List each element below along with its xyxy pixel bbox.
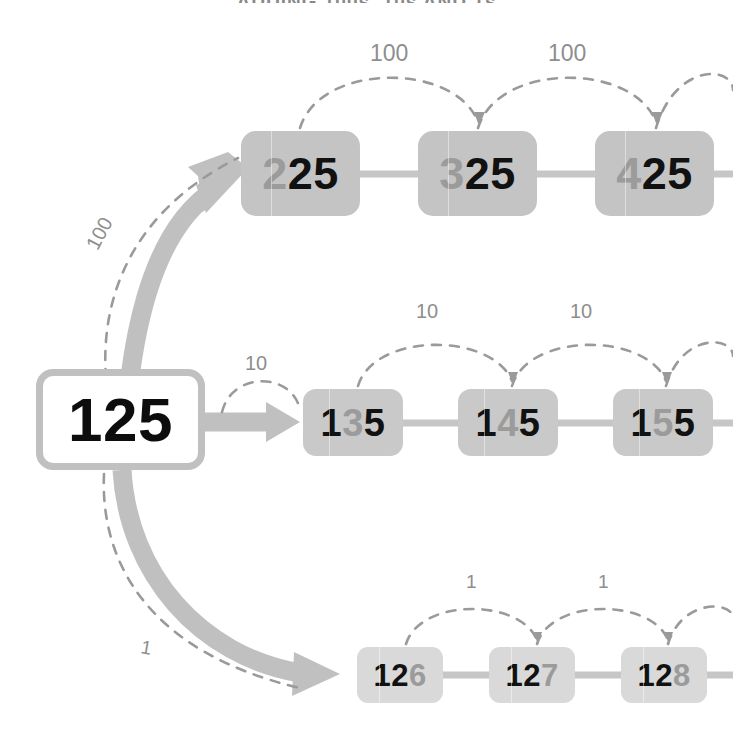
digit: 2 [642, 151, 668, 196]
digit: 1 [476, 404, 498, 442]
digit: 5 [364, 404, 386, 442]
node-digits: 225 [262, 151, 339, 196]
node-digits: 425 [616, 151, 693, 196]
branch-tens-guide-arc [222, 381, 299, 412]
start-number-box[interactable]: 125 [36, 369, 205, 470]
digit: 2 [523, 660, 541, 691]
diagram-canvas: ADDING 100s, 10s AND 1s [0, 0, 733, 739]
digit: 5 [667, 151, 693, 196]
branch-label-tens: 10 [245, 352, 267, 375]
digit-changed: 8 [673, 660, 691, 691]
tens-hop-arcs [358, 342, 733, 386]
digit: 2 [391, 660, 409, 691]
digit: 5 [490, 151, 516, 196]
hundreds-hop-arrowheads [474, 112, 663, 126]
start-number-digits: 125 [68, 389, 173, 451]
ones-hop-arcs [406, 607, 733, 644]
digit-changed: 3 [439, 151, 465, 196]
node-hundreds-2[interactable]: 325 [418, 131, 537, 216]
node-digits: 145 [476, 404, 541, 442]
digit-changed: 5 [652, 404, 674, 442]
node-hundreds-3[interactable]: 425 [595, 131, 714, 216]
digit: 2 [103, 389, 138, 451]
digit: 1 [631, 404, 653, 442]
tens-hop-arrowheads [508, 372, 672, 385]
hop-label-tens-2: 10 [570, 300, 592, 323]
digit: 1 [505, 660, 523, 691]
digit-changed: 4 [497, 404, 519, 442]
digit-changed: 2 [262, 151, 288, 196]
node-tens-2[interactable]: 145 [458, 389, 558, 456]
digit: 1 [637, 660, 655, 691]
node-digits: 127 [505, 660, 558, 691]
digit: 2 [288, 151, 314, 196]
digit: 5 [138, 389, 173, 451]
digit: 5 [674, 404, 696, 442]
node-digits: 126 [373, 660, 426, 691]
digit: 1 [373, 660, 391, 691]
node-digits: 128 [637, 660, 690, 691]
digit: 2 [655, 660, 673, 691]
hop-label-hundreds-1: 100 [370, 40, 408, 67]
node-ones-2[interactable]: 127 [489, 647, 575, 703]
digit: 1 [68, 389, 103, 451]
hundreds-hop-arcs [300, 74, 733, 128]
hop-label-hundreds-2: 100 [548, 40, 586, 67]
hop-label-tens-1: 10 [416, 300, 438, 323]
arrow-to-tens [204, 402, 300, 442]
node-hundreds-1[interactable]: 225 [241, 131, 360, 216]
node-ones-3[interactable]: 128 [621, 647, 707, 703]
hop-label-ones-2: 1 [598, 571, 609, 593]
node-digits: 325 [439, 151, 516, 196]
node-tens-1[interactable]: 135 [303, 389, 403, 456]
digit: 5 [519, 404, 541, 442]
ones-hop-arrowheads [533, 632, 673, 644]
hop-label-ones-1: 1 [466, 571, 477, 593]
arrow-to-ones [122, 470, 340, 696]
node-tens-3[interactable]: 155 [613, 389, 713, 456]
node-ones-1[interactable]: 126 [357, 647, 443, 703]
node-digits: 155 [631, 404, 696, 442]
digit-changed: 7 [541, 660, 559, 691]
digit: 5 [313, 151, 339, 196]
digit-changed: 3 [342, 404, 364, 442]
digit: 2 [465, 151, 491, 196]
digit-changed: 6 [409, 660, 427, 691]
digit-changed: 4 [616, 151, 642, 196]
digit: 1 [321, 404, 343, 442]
node-digits: 135 [321, 404, 386, 442]
